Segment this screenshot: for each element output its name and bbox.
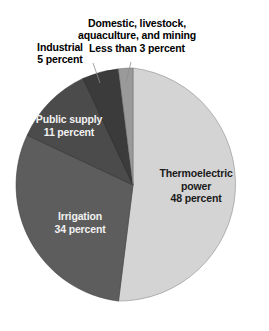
pie-label-thermoelectric-line-3: 48 percent bbox=[144, 192, 248, 205]
pie-label-industrial: Industrial 5 percent bbox=[24, 41, 96, 66]
pie-label-domestic-line-2: aquaculture, and mining bbox=[72, 29, 202, 41]
pie-chart-figure: Domestic, livestock, aquaculture, and mi… bbox=[0, 0, 269, 331]
pie-label-irrigation: Irrigation 34 percent bbox=[37, 210, 123, 235]
pie-label-thermoelectric-line-2: power bbox=[144, 180, 248, 193]
pie-label-industrial-line-1: Industrial bbox=[24, 41, 96, 53]
pie-label-public-supply: Public supply 11 percent bbox=[22, 113, 116, 138]
pie-label-thermoelectric-line-1: Thermoelectric bbox=[144, 167, 248, 180]
pie-label-irrigation-line-1: Irrigation bbox=[37, 210, 123, 223]
pie-label-industrial-line-2: 5 percent bbox=[24, 53, 96, 65]
pie-label-public-supply-line-2: 11 percent bbox=[22, 126, 116, 139]
pie-label-irrigation-line-2: 34 percent bbox=[37, 223, 123, 236]
pie-label-thermoelectric-power: Thermoelectric power 48 percent bbox=[144, 167, 248, 205]
pie-label-public-supply-line-1: Public supply bbox=[22, 113, 116, 126]
pie-label-domestic-line-1: Domestic, livestock, bbox=[72, 17, 202, 29]
